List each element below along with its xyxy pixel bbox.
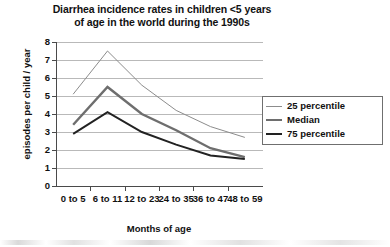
y-axis-tick-mark [52, 42, 56, 43]
x-axis-tick-mark [159, 187, 160, 191]
gridline [57, 114, 263, 115]
gridline [57, 42, 263, 43]
y-axis-tick-mark [52, 96, 56, 97]
gridline [57, 150, 263, 151]
y-axis-tick-label: 5 [30, 91, 50, 101]
legend-item-label: 25 percentile [287, 101, 345, 111]
legend-swatch-icon [266, 133, 282, 135]
y-axis-tick-label: 0 [30, 181, 50, 191]
y-axis-tick-mark [52, 168, 56, 169]
y-axis-tick-mark [52, 60, 56, 61]
chart-legend: 25 percentileMedian75 percentile [262, 96, 383, 145]
chart-title-line-2: of age in the world during the 1990s [12, 16, 312, 29]
x-axis-title: Months of age [56, 223, 262, 234]
gridline [57, 168, 263, 169]
x-axis-tick-mark [90, 187, 91, 191]
x-axis-tick-mark [125, 187, 126, 191]
x-axis-tick-mark [193, 187, 194, 191]
y-axis-tick-label: 1 [30, 163, 50, 173]
y-axis-tick-label: 2 [30, 145, 50, 155]
gridline [57, 132, 263, 133]
chart-figure: Diarrhea incidence rates in children <5 … [0, 0, 390, 247]
y-axis-tick-label: 8 [30, 37, 50, 47]
y-axis-tick-mark [52, 132, 56, 133]
y-axis-tick-mark [52, 78, 56, 79]
plot-area [56, 42, 263, 187]
y-axis-tick-label: 7 [30, 55, 50, 65]
x-axis-tick-mark [228, 187, 229, 191]
y-axis-tick-mark [52, 150, 56, 151]
legend-item: 25 percentile [263, 99, 382, 113]
gridline [57, 96, 263, 97]
legend-swatch-icon [266, 106, 282, 107]
legend-item: 75 percentile [263, 127, 382, 141]
y-axis-title-container: episodes per child / year [8, 45, 22, 185]
y-axis-tick-mark [52, 114, 56, 115]
y-axis-tick-mark [52, 186, 56, 187]
gridline [57, 60, 263, 61]
legend-swatch-icon [266, 119, 282, 121]
chart-title: Diarrhea incidence rates in children <5 … [12, 3, 312, 29]
scan-artifact [0, 240, 390, 245]
y-axis-tick-label: 6 [30, 73, 50, 83]
legend-item: Median [263, 113, 382, 127]
legend-item-label: Median [287, 115, 320, 125]
legend-item-label: 75 percentile [287, 129, 345, 139]
y-axis-tick-label: 3 [30, 127, 50, 137]
x-axis-tick-label: 48 to 59 [224, 193, 266, 204]
y-axis-tick-label: 4 [30, 109, 50, 119]
gridline [57, 78, 263, 79]
chart-title-line-1: Diarrhea incidence rates in children <5 … [53, 3, 272, 15]
y-axis-tick-labels: 012345678 [28, 0, 50, 247]
